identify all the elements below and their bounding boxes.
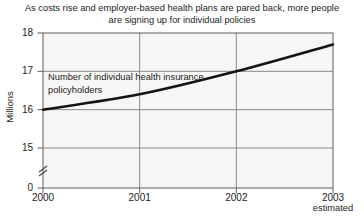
- x-tick-label: 2001: [118, 192, 162, 204]
- chart-canvas: [0, 0, 364, 221]
- x-tick-label: 2003: [311, 192, 355, 204]
- y-tick-label: 17: [9, 65, 33, 77]
- x-tick-label: 2000: [21, 192, 65, 204]
- y-tick-label: 18: [9, 27, 33, 39]
- y-tick-label: 16: [9, 104, 33, 116]
- chart-title: As costs rise and employer-based health …: [0, 3, 364, 26]
- chart-title-line2: are signing up for individual policies: [0, 15, 364, 27]
- x-tick-label: 2002: [214, 192, 258, 204]
- series-annotation-line1: Number of individual health insurance: [48, 71, 248, 84]
- chart-figure: As costs rise and employer-based health …: [0, 0, 364, 221]
- series-annotation-line2: policyholders: [48, 84, 248, 97]
- y-tick-label: 15: [9, 142, 33, 154]
- series-annotation: Number of individual health insurance po…: [48, 71, 248, 96]
- chart-title-line1: As costs rise and employer-based health …: [0, 3, 364, 15]
- x-axis-footnote: estimated: [303, 203, 363, 213]
